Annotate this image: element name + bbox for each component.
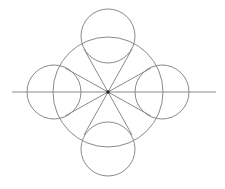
- small-circle-bottom: [81, 122, 135, 176]
- geometric-diagram: [0, 0, 225, 189]
- small-circle-top: [81, 9, 135, 63]
- diagram-canvas: [0, 0, 225, 189]
- center-point: [107, 91, 110, 94]
